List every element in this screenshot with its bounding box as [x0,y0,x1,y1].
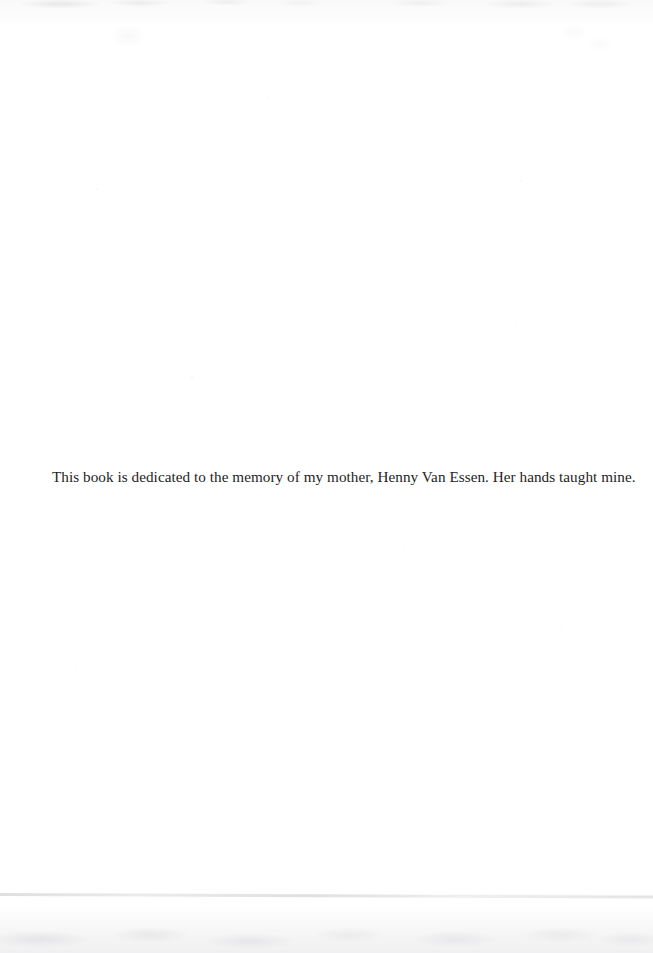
scan-speck [268,97,270,99]
scan-bottom-shadow-artifact [0,905,653,953]
scan-speck [76,666,78,668]
scan-speck [612,434,613,435]
scan-speck [96,188,98,190]
scan-speck [560,628,562,630]
scan-speck [191,377,193,379]
scan-seam-line-artifact [0,893,653,899]
scan-speck [516,322,518,324]
scan-speck [520,180,522,182]
scan-noise-top-artifact [0,0,653,26]
scan-noise-top-secondary-artifact [0,18,653,78]
dedication-page: This book is dedicated to the memory of … [0,0,653,953]
scan-speck [452,812,453,813]
dedication-text: This book is dedicated to the memory of … [52,467,612,487]
scan-speck [330,732,331,733]
scan-speck [404,548,406,550]
scan-speck [148,836,149,837]
